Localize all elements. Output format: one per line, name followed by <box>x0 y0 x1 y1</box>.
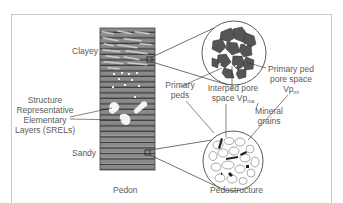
primary-pore-label-line-1: Primary ped <box>264 64 318 74</box>
primary-pore-label-line-2: pore space <box>264 74 318 84</box>
pedon-label: Pedon <box>113 185 138 195</box>
sandy-label: Sandy <box>72 148 96 158</box>
primary-peds-label-line-1: Primary <box>163 80 197 90</box>
pedostructure-label: Pedostructure <box>210 185 263 195</box>
primary-peds-label-line-2: peds <box>163 90 197 100</box>
interped-label-line-2: space Vpma <box>206 93 260 106</box>
interped-subscript: ma <box>247 98 254 104</box>
interped-label-line-1: Interped pore <box>206 83 260 93</box>
interped-label-text: space Vp <box>212 93 247 103</box>
mineral-label-line-1: Mineral <box>252 106 286 116</box>
srel-label: Structure Representative Elementary Laye… <box>8 95 82 135</box>
primary-ped-pore-space-label: Primary ped pore space Vpmi <box>264 64 318 97</box>
mineral-label-line-2: grains <box>252 116 286 126</box>
srel-label-line-3: Elementary <box>8 115 82 125</box>
primary-peds-label: Primary peds <box>163 80 197 100</box>
primary-pore-subscript: mi <box>294 89 299 95</box>
mineral-grains-label: Mineral grains <box>252 106 286 126</box>
srel-label-line-4: Layers (SRELs) <box>8 125 82 135</box>
interped-pore-space-label: Interped pore space Vpma <box>206 83 260 106</box>
srel-label-line-1: Structure <box>8 95 82 105</box>
clayey-label: Clayey <box>72 46 98 56</box>
primary-pore-label-text: Vp <box>283 84 293 94</box>
primary-peds-circle <box>202 21 266 85</box>
srel-label-line-2: Representative <box>8 105 82 115</box>
pedon-column <box>100 28 155 170</box>
pedostructure-circle <box>203 131 263 191</box>
primary-pore-label-line-3: Vpmi <box>264 84 318 97</box>
